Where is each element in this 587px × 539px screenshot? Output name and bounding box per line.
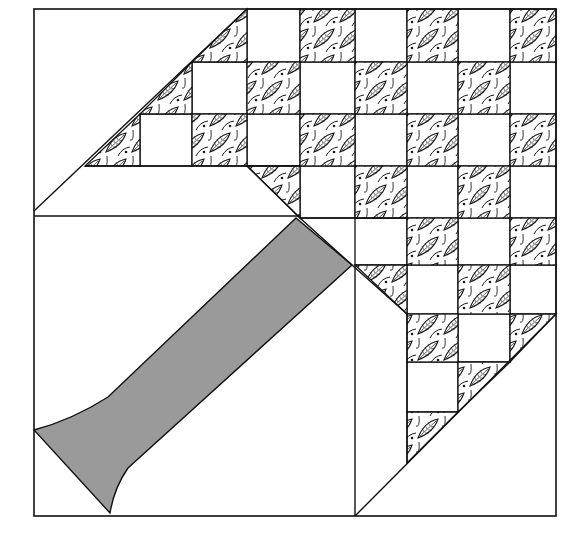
white-square: [510, 166, 556, 218]
leaf-print-square: [407, 9, 458, 62]
white-square: [510, 62, 556, 114]
leaf-print-square: [355, 166, 407, 218]
leaf-print-square: [510, 9, 556, 62]
white-square: [458, 314, 510, 362]
leaf-print-square: [458, 166, 510, 218]
white-square: [140, 114, 192, 166]
leaf-print-square: [300, 114, 355, 166]
white-square: [247, 9, 300, 62]
leaf-print-triangle: [85, 114, 140, 166]
leaf-print-square: [458, 62, 510, 114]
white-square: [510, 265, 556, 314]
leaf-print-square: [355, 62, 407, 114]
white-square: [192, 62, 247, 114]
white-square: [407, 166, 458, 218]
leaf-print-square: [407, 314, 458, 362]
tree-trunk: [34, 218, 352, 513]
leaf-print-square: [510, 114, 556, 166]
white-square: [355, 9, 407, 62]
white-square: [407, 62, 458, 114]
white-square: [355, 114, 407, 166]
leaf-print-square: [192, 114, 247, 166]
white-square: [247, 114, 300, 166]
white-square: [355, 218, 407, 265]
white-square: [458, 114, 510, 166]
white-square: [458, 218, 510, 265]
leaf-print-square: [510, 218, 556, 265]
leaf-print-triangle: [140, 62, 192, 114]
leaf-print-square: [407, 114, 458, 166]
quilt-block-figure: [0, 0, 587, 539]
white-square: [407, 362, 458, 412]
white-square: [458, 9, 510, 62]
white-square: [300, 62, 355, 114]
leaf-print-square: [458, 265, 510, 314]
leaf-print-square: [247, 62, 300, 114]
white-square: [407, 265, 458, 314]
leaf-print-square: [300, 9, 355, 62]
white-square: [300, 166, 355, 218]
leaf-print-square: [407, 218, 458, 265]
